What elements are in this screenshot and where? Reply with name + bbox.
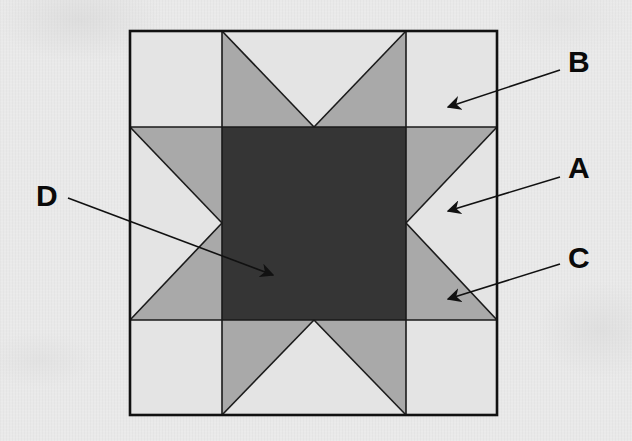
corner-square-bottom-left: [130, 320, 222, 415]
corner-square-top-left: [130, 31, 222, 127]
label-c: C: [568, 243, 590, 273]
corner-square-bottom-right: [406, 320, 497, 415]
label-a: A: [568, 153, 590, 183]
label-b: B: [568, 47, 590, 77]
center-square-d: [222, 127, 406, 320]
corner-square-top-right: [406, 31, 497, 127]
label-d: D: [36, 181, 58, 211]
quilt-block-diagram: [0, 0, 632, 441]
